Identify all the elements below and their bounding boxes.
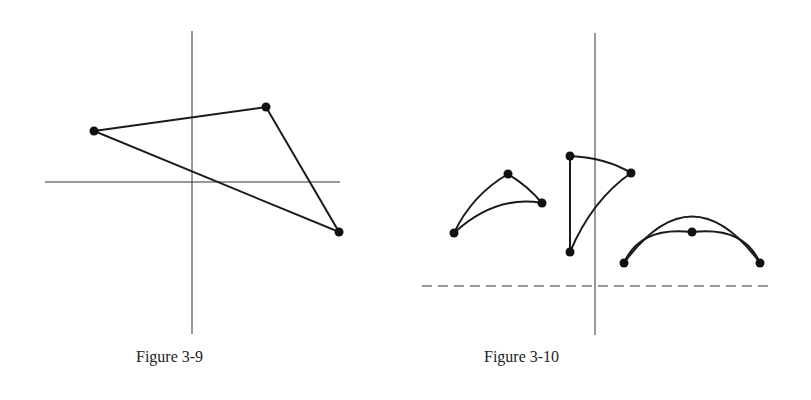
vertex-point	[688, 228, 697, 237]
vertex-point	[566, 248, 575, 257]
vertex-point	[90, 127, 99, 136]
vertex-point	[538, 199, 547, 208]
vertex-point	[566, 152, 575, 161]
figure-3-9-caption: Figure 3-9	[136, 348, 203, 366]
vertex-point	[627, 169, 636, 178]
vertex-point	[450, 229, 459, 238]
curved-triangle-1	[454, 174, 542, 233]
curved-triangle-3	[624, 217, 760, 264]
figures-canvas	[0, 0, 811, 400]
vertex-point	[620, 259, 629, 268]
curved-triangle-2	[570, 156, 631, 252]
vertex-point	[262, 103, 271, 112]
triangle	[94, 107, 339, 232]
vertex-point	[335, 228, 344, 237]
figure-3-9-diagram	[45, 31, 344, 334]
vertex-point	[504, 170, 513, 179]
figure-3-10-diagram	[422, 33, 771, 335]
vertex-point	[756, 259, 765, 268]
figure-3-10-caption: Figure 3-10	[484, 348, 559, 366]
